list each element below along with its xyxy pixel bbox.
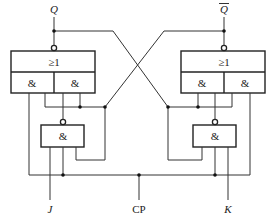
q-bar-output-label: Q xyxy=(219,3,229,15)
junction-dot-icon xyxy=(61,173,65,177)
left-inverter-bubble-icon xyxy=(51,45,56,50)
left-and-symbol-1: & xyxy=(28,77,37,89)
junction-dot-icon xyxy=(137,173,141,177)
right-nand-symbol: & xyxy=(211,130,220,142)
right-or-symbol: ≥1 xyxy=(218,56,230,68)
right-nand-gate: & xyxy=(193,119,236,147)
k-input-label: K xyxy=(223,203,232,215)
q-output-label: Q xyxy=(50,3,58,15)
right-nand-bubble-icon xyxy=(212,119,217,124)
junction-dot-icon xyxy=(166,105,170,109)
left-or-symbol: ≥1 xyxy=(48,56,60,68)
right-aoi-gate: ≥1 & & xyxy=(181,45,265,93)
j-input-label: J xyxy=(48,203,54,215)
left-nand-gate: & xyxy=(41,119,84,147)
left-nand-bubble-icon xyxy=(60,119,65,124)
junction-dot-icon xyxy=(196,105,200,109)
junction-dot-icon xyxy=(52,29,56,33)
junction-dot-icon xyxy=(222,29,226,33)
junction-dot-icon xyxy=(103,105,107,109)
junction-dot-icon xyxy=(78,105,82,109)
right-inverter-bubble-icon xyxy=(221,45,226,50)
wiring xyxy=(29,17,250,200)
right-and-symbol-2: & xyxy=(241,77,250,89)
left-and-symbol-2: & xyxy=(71,77,80,89)
right-and-symbol-1: & xyxy=(198,77,207,89)
left-nand-symbol: & xyxy=(59,130,68,142)
junction-dot-icon xyxy=(213,173,217,177)
jk-flipflop-diagram: Q Q ≥1 & & ≥1 & & & & xyxy=(0,0,273,219)
svg-text:Q: Q xyxy=(220,3,228,15)
left-aoi-gate: ≥1 & & xyxy=(11,45,95,93)
cp-input-label: CP xyxy=(132,203,145,215)
